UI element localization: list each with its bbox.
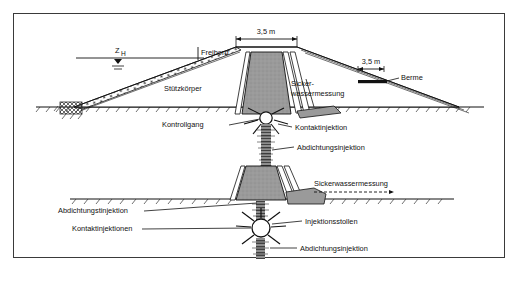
figure-frame: 3,5 m 3,5 m Berme Z bbox=[13, 13, 505, 258]
abdichtungstinjektion-leader bbox=[144, 203, 257, 211]
berme-label: Berme bbox=[401, 73, 423, 82]
inspection-gallery-upper bbox=[260, 112, 272, 124]
figure-container: 3,5 m 3,5 m Berme Z bbox=[0, 0, 518, 286]
injection-gallery-lower bbox=[252, 219, 270, 237]
sickerwasser-label-line1: Sicker- bbox=[291, 79, 315, 88]
water-level-sublabel: H bbox=[121, 50, 126, 57]
kontaktinjektionen-label: Kontaktinjektionen bbox=[72, 224, 132, 233]
dam-cross-section-diagram: 3,5 m 3,5 m Berme Z bbox=[14, 14, 506, 259]
kontaktinjektionen-leader bbox=[142, 228, 251, 229]
impervious-core bbox=[242, 52, 291, 114]
upper-cross-section: 3,5 m 3,5 m Berme Z bbox=[36, 27, 484, 172]
injektionsstollen-leader bbox=[272, 221, 302, 224]
berme-leader bbox=[387, 78, 399, 81]
lower-detail-section: Sickerwassermessung bbox=[58, 166, 454, 259]
berme-dimension-label: 3,5 m bbox=[362, 57, 380, 66]
berme-bar bbox=[358, 80, 387, 83]
abdichtungsinjektion-leader-upper bbox=[272, 147, 294, 150]
grout-curtain-deep bbox=[256, 238, 265, 259]
sickerwassermessung-label-lower: Sickerwassermessung bbox=[314, 179, 388, 188]
crest-dimension: 3,5 m bbox=[236, 27, 297, 47]
abdichtungstinjektion-label: Abdichtungstinjektion bbox=[58, 206, 128, 215]
kontrollgang-label: Kontrollgang bbox=[162, 120, 204, 129]
stuetzkoerper-label: Stützkörper bbox=[164, 84, 202, 93]
figure-caption bbox=[20, 264, 498, 278]
kontaktinjektion-label-upper: Kontaktinjektion bbox=[295, 123, 347, 132]
water-level-label: Z bbox=[115, 46, 120, 55]
sickerwasser-label-line2: wassermessung bbox=[290, 89, 344, 98]
kontaktinjektion-leader-upper bbox=[278, 124, 292, 127]
abdichtungsinjektion-label-lower: Abdichtungsinjektion bbox=[300, 244, 368, 253]
abdichtungsinjektion-label-upper: Abdichtungsinjektion bbox=[297, 143, 365, 152]
freibord-label: Freibord bbox=[201, 48, 229, 57]
crest-dimension-label: 3,5 m bbox=[257, 27, 275, 36]
injektionsstollen-label: Injektionsstollen bbox=[305, 217, 358, 226]
berme-dimension: 3,5 m bbox=[358, 57, 384, 72]
upstream-toe-filter-block bbox=[60, 102, 82, 114]
